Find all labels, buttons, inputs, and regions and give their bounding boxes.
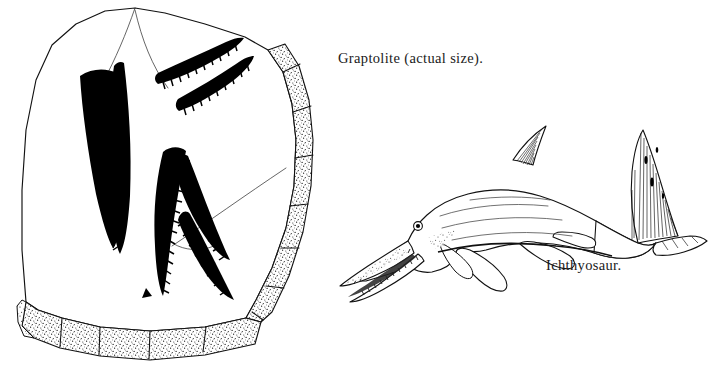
ichthyosaur-eye bbox=[414, 222, 423, 231]
caption-graptolite: Graptolite (actual size). bbox=[338, 51, 483, 66]
ichthyosaur-dorsal-fin bbox=[513, 126, 546, 165]
illustration-plate: Graptolite (actual size). Ichthyosaur. bbox=[0, 0, 714, 374]
ichthyosaur-figure bbox=[340, 126, 707, 302]
rock-slab-figure bbox=[17, 8, 313, 360]
caption-ichthyosaur: Ichthyosaur. bbox=[546, 258, 621, 273]
